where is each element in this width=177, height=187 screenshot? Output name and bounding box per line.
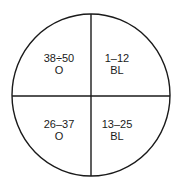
quadrant-code: BL <box>92 64 142 76</box>
quadrant-bottom-right: 13–25 BL <box>92 118 142 142</box>
quadrant-code: O <box>34 64 84 76</box>
quadrant-range: 13–25 <box>92 118 142 130</box>
quadrant-code: O <box>34 130 84 142</box>
quadrant-top-left: 38÷50 O <box>34 52 84 76</box>
quadrant-range: 1–12 <box>92 52 142 64</box>
quadrant-range: 38÷50 <box>34 52 84 64</box>
quadrant-top-right: 1–12 BL <box>92 52 142 76</box>
quadrant-code: BL <box>92 130 142 142</box>
quadrant-range: 26–37 <box>34 118 84 130</box>
quadrant-circle-diagram <box>0 0 177 187</box>
quadrant-bottom-left: 26–37 O <box>34 118 84 142</box>
